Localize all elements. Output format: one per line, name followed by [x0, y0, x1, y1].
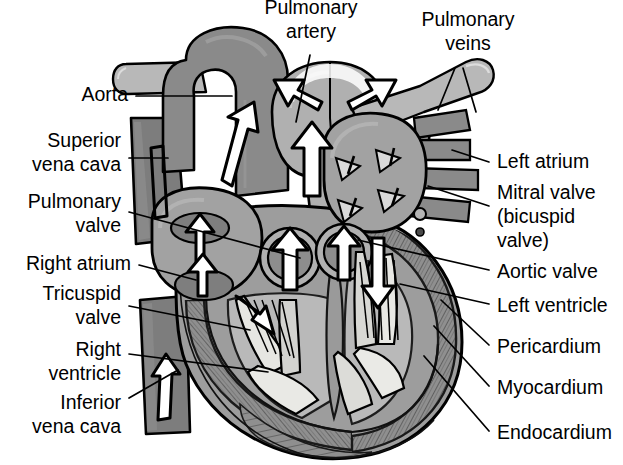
heart-diagram-canvas: Pulmonary artery Pulmonary veins Aorta S… — [0, 0, 623, 465]
coronary-vessel-marker-1 — [414, 208, 426, 220]
label-left-atrium: Left atrium — [497, 150, 589, 172]
label-inferior-vena-cava-line-1: Inferior — [60, 391, 121, 413]
label-mitral-valve-line-3: valve) — [497, 229, 549, 251]
label-myocardium: Myocardium — [497, 376, 603, 398]
label-right-ventricle-line-1: Right — [75, 338, 121, 360]
label-right-atrium-line-1: Right atrium — [26, 252, 131, 274]
label-right-ventricle-line-2: ventricle — [48, 362, 121, 384]
label-tricuspid-valve-line-2: valve — [75, 306, 121, 328]
label-inferior-vena-cava-line-2: vena cava — [32, 415, 121, 437]
label-pericardium-line-1: Pericardium — [497, 335, 601, 357]
left-atrium-chamber — [324, 113, 426, 236]
label-aortic-valve-line-1: Aortic valve — [497, 260, 598, 282]
label-left-atrium-line-1: Left atrium — [497, 150, 589, 172]
label-pulmonary-veins-line-1: Pulmonary — [421, 8, 514, 30]
label-mitral-valve-line-1: Mitral valve — [497, 181, 596, 203]
label-aortic-valve: Aortic valve — [497, 260, 598, 282]
label-mitral-valve-line-2: (bicuspid — [497, 205, 575, 227]
label-pericardium: Pericardium — [497, 335, 601, 357]
label-pulmonary-valve-line-1: Pulmonary — [28, 190, 121, 212]
label-superior-vena-cava-line-1: Superior — [47, 129, 121, 151]
label-pulmonary-artery-line-2: artery — [286, 20, 336, 42]
label-left-ventricle: Left ventricle — [497, 294, 608, 316]
label-aorta-line-1: Aorta — [81, 83, 128, 105]
label-endocardium-line-1: Endocardium — [497, 421, 612, 443]
label-pulmonary-veins-line-2: veins — [445, 32, 491, 54]
label-aorta: Aorta — [81, 83, 128, 105]
label-tricuspid-valve-line-1: Tricuspid — [43, 282, 121, 304]
label-pulmonary-artery-line-1: Pulmonary — [264, 0, 357, 18]
label-pulmonary-valve-line-2: valve — [75, 214, 121, 236]
coronary-vessel-marker-2 — [416, 228, 424, 236]
heart-anatomy-svg: Pulmonary artery Pulmonary veins Aorta S… — [0, 0, 623, 465]
label-left-ventricle-line-1: Left ventricle — [497, 294, 608, 316]
label-myocardium-line-1: Myocardium — [497, 376, 603, 398]
label-right-atrium: Right atrium — [26, 252, 131, 274]
label-endocardium: Endocardium — [497, 421, 612, 443]
label-superior-vena-cava-line-2: vena cava — [32, 153, 121, 175]
